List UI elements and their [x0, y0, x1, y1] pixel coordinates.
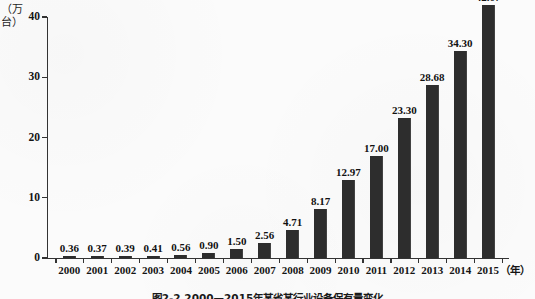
- y-axis-tick-label: 30: [18, 71, 40, 82]
- bar: [454, 51, 467, 258]
- bar: [202, 253, 215, 258]
- bar: [119, 256, 132, 258]
- bar-value-label: 17.00: [353, 143, 399, 154]
- y-axis-tick-labels: 010203040: [14, 0, 40, 299]
- x-axis-tick-mark: [362, 258, 363, 263]
- bar: [174, 255, 187, 258]
- x-axis-tick-mark: [83, 258, 84, 263]
- bar-value-label: 23.30: [381, 105, 427, 116]
- figure-caption: 图2-2 2000—2015年某省某行业设备保有量变化: [0, 290, 535, 299]
- x-axis-tick-mark: [251, 258, 252, 263]
- x-axis-tick-mark: [223, 258, 224, 263]
- bar-value-label: 42.07: [465, 0, 511, 3]
- x-axis-tick-mark: [139, 258, 140, 263]
- bar: [426, 85, 439, 258]
- x-axis-tick-mark: [111, 258, 112, 263]
- y-axis-tick-mark: [42, 16, 47, 17]
- y-axis-tick-mark: [42, 137, 47, 138]
- y-axis-tick-label: 20: [18, 132, 40, 143]
- x-axis-tick-mark: [418, 258, 419, 263]
- y-axis-line: [47, 17, 48, 259]
- y-axis-tick-label: 40: [18, 11, 40, 22]
- y-axis-tick-label: 10: [18, 192, 40, 203]
- x-axis-tick-mark: [446, 258, 447, 263]
- y-axis-tick-mark: [42, 77, 47, 78]
- bar-value-label: 12.97: [325, 167, 371, 178]
- bar-value-label: 8.17: [298, 196, 344, 207]
- figure-bar-chart: （万台） 010203040 （年） 图2-2 2000—2015年某省某行业设…: [0, 0, 535, 299]
- bar: [230, 249, 243, 258]
- bar: [147, 256, 160, 258]
- bar: [91, 256, 104, 258]
- bar: [398, 118, 411, 258]
- bar: [286, 230, 299, 258]
- x-axis-tick-mark: [307, 258, 308, 263]
- x-axis-tick-mark: [279, 258, 280, 263]
- bar: [258, 243, 271, 258]
- bar-value-label: 2.56: [242, 230, 288, 241]
- y-axis-tick-mark: [42, 257, 47, 258]
- bar: [314, 209, 327, 258]
- x-axis-tick-mark: [167, 258, 168, 263]
- bar: [370, 156, 383, 258]
- x-axis-tick-mark: [55, 258, 56, 263]
- bar: [342, 180, 355, 258]
- x-axis-tick-mark: [335, 258, 336, 263]
- bar: [63, 256, 76, 258]
- bar-value-label: 4.71: [270, 217, 316, 228]
- bar: [482, 5, 495, 258]
- x-axis-tick-mark: [474, 258, 475, 263]
- y-axis-tick-label: 0: [18, 252, 40, 263]
- x-axis-tick-label: 2015: [471, 264, 505, 276]
- x-axis-tick-mark: [502, 258, 503, 263]
- x-axis-tick-mark: [195, 258, 196, 263]
- y-axis-tick-mark: [42, 197, 47, 198]
- bar-value-label: 28.68: [409, 72, 455, 83]
- x-axis-tick-mark: [390, 258, 391, 263]
- bar-value-label: 34.30: [437, 38, 483, 49]
